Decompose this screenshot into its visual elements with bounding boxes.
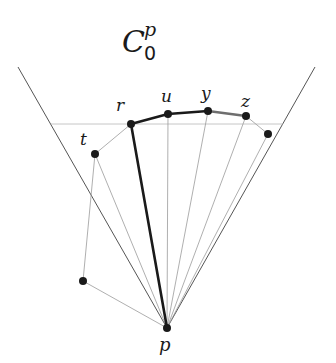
point-t bbox=[91, 150, 99, 158]
edge-v-p bbox=[83, 281, 167, 328]
ray-p-t bbox=[95, 154, 167, 328]
label-y: y bbox=[200, 83, 211, 103]
title-superscript: p bbox=[144, 18, 156, 40]
vertices bbox=[79, 107, 272, 332]
ray-p-y bbox=[167, 111, 208, 328]
rays-from-p bbox=[95, 111, 268, 328]
label-t: t bbox=[80, 129, 87, 149]
point-w bbox=[264, 130, 272, 138]
bold-chain-p-r-u-y bbox=[131, 111, 208, 328]
point-v bbox=[79, 277, 87, 285]
label-z: z bbox=[240, 91, 251, 111]
ray-p-w bbox=[167, 134, 268, 328]
label-p: p bbox=[159, 334, 171, 355]
label-u: u bbox=[161, 86, 172, 106]
edge-t-v bbox=[83, 154, 95, 281]
point-y bbox=[204, 107, 212, 115]
edge-r-t bbox=[95, 124, 131, 154]
diagram-title: C p 0 bbox=[122, 18, 156, 64]
point-u bbox=[164, 110, 172, 118]
cone-diagram: C p 0 r u y z t bbox=[0, 0, 336, 363]
edge-z-w bbox=[246, 116, 268, 134]
label-r: r bbox=[116, 95, 125, 115]
polygon-edges bbox=[83, 116, 268, 328]
point-r bbox=[127, 120, 135, 128]
ray-p-u bbox=[167, 114, 168, 328]
ray-p-z bbox=[167, 116, 246, 328]
gray-chain-y-z bbox=[208, 111, 246, 116]
point-p bbox=[163, 324, 171, 332]
title-main: C bbox=[122, 24, 145, 59]
point-z bbox=[242, 112, 250, 120]
title-subscript: 0 bbox=[144, 42, 156, 64]
